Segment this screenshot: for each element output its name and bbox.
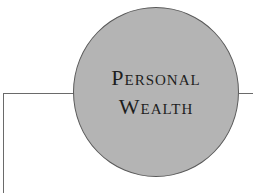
personal-wealth-node (73, 7, 239, 177)
left-connector-horizontal (3, 93, 74, 94)
node-label-line2: Wealth (73, 96, 239, 118)
node-label-line1: Personal (73, 67, 239, 89)
left-connector-vertical (3, 93, 4, 193)
right-connector-horizontal (239, 93, 253, 94)
